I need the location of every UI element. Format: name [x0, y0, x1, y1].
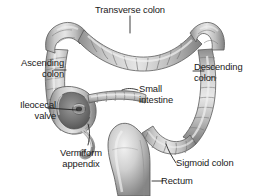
label-rectum: Rectum	[161, 176, 209, 187]
label-sigmoid-colon: Sigmoid colon	[176, 158, 256, 169]
leader-small-intestine	[122, 89, 138, 91]
label-small-intestine: Small intestine	[139, 84, 197, 105]
small-intestine	[88, 91, 146, 103]
anatomy-figure: Transverse colon Ascending colon Descend…	[0, 0, 258, 196]
label-descending-colon: Descending colon	[194, 62, 258, 83]
transverse-colon	[78, 30, 202, 71]
ileocecal-valve	[73, 104, 86, 114]
label-ileocecal-valve: Ileocecal valve	[0, 100, 56, 121]
label-transverse-colon: Transverse colon	[72, 5, 188, 16]
label-ascending-colon: Ascending colon	[2, 58, 64, 79]
label-vermiform-appendix: Vermiform appendix	[48, 148, 114, 169]
